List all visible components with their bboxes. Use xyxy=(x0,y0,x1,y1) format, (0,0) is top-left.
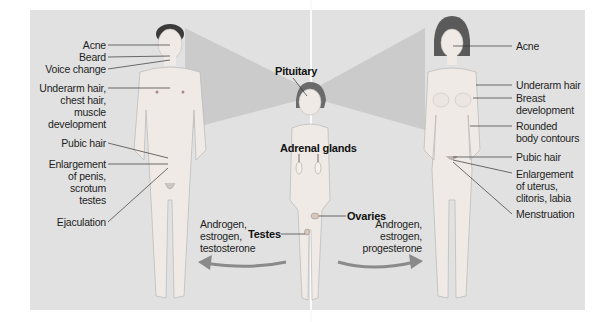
male-label-voice-change: Voice change xyxy=(45,63,106,75)
female-hormone-arrow xyxy=(338,262,415,267)
child-label-testes: Testes xyxy=(248,228,281,240)
male-label-pubic-hair: Pubic hair xyxy=(61,137,106,149)
child-label-adrenal-glands: Adrenal glands xyxy=(280,142,357,154)
male-label-acne: Acne xyxy=(83,39,106,51)
male-label-enlargement: Enlargement of penis, scrotum testes xyxy=(49,158,106,206)
female-label-breast-development: Breast development xyxy=(516,92,574,116)
female-hormones-text: Androgen, estrogen, progesterone xyxy=(363,218,422,254)
male-hormone-arrow xyxy=(205,262,286,266)
female-label-underarm-hair: Underarm hair xyxy=(516,79,581,91)
female-label-acne: Acne xyxy=(516,40,539,52)
male-label-ejaculation: Ejaculation xyxy=(57,216,106,228)
female-label-pubic-hair: Pubic hair xyxy=(516,151,561,163)
female-label-menstruation: Menstruation xyxy=(516,208,574,220)
female-label-rounded-body: Rounded body contours xyxy=(516,120,579,144)
male-label-beard: Beard xyxy=(79,51,106,63)
male-label-underarm-chest-muscle: Underarm hair, chest hair, muscle develo… xyxy=(39,82,106,130)
child-label-pituitary: Pituitary xyxy=(275,65,317,77)
female-label-enlargement: Enlargement of uterus, clitoris, labia xyxy=(516,168,573,204)
